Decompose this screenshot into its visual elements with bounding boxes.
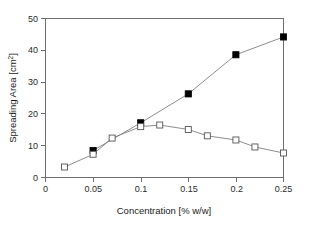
data-point-open-square-series-1 <box>90 151 96 157</box>
x-tick-label-015: 0.15 <box>180 184 198 194</box>
data-point-open-square-series-5 <box>185 126 191 132</box>
x-tick-label-0: 0 <box>43 184 48 194</box>
data-point-filled-square-series-3 <box>233 52 239 58</box>
data-point-open-square-series-3 <box>138 124 144 130</box>
data-point-open-square-series-8 <box>252 144 258 150</box>
y-tick-label-40: 40 <box>28 45 38 55</box>
chart-container: 0 10 20 30 40 50 0 0.05 0.1 0.15 0.2 0.2… <box>0 0 309 227</box>
x-tick-label-025: 0.25 <box>275 184 293 194</box>
x-tick-label-005: 0.05 <box>85 184 103 194</box>
svg-text:Spreading Area [cm2]: Spreading Area [cm2] <box>7 53 18 143</box>
data-point-open-square-series-6 <box>204 133 210 139</box>
axes-group <box>45 18 284 178</box>
series-filled-square-series <box>90 34 287 154</box>
x-tick-label-02: 0.2 <box>230 184 243 194</box>
data-point-filled-square-series-4 <box>280 34 286 40</box>
series-line-1 <box>65 125 284 167</box>
data-point-open-square-series-7 <box>233 137 239 143</box>
data-point-open-square-series-9 <box>281 150 287 156</box>
y-tick-label-20: 20 <box>28 109 38 119</box>
data-point-open-square-series-4 <box>157 122 163 128</box>
y-axis-title-tail: ] <box>7 53 18 56</box>
y-tick-label-50: 50 <box>28 14 38 24</box>
series-open-square-series <box>62 122 287 170</box>
y-tick-label-30: 30 <box>28 77 38 87</box>
y-axis-title-base: Spreading Area [cm <box>7 59 18 143</box>
series-layer <box>62 34 287 170</box>
data-point-open-square-series-0 <box>62 164 68 170</box>
x-tick-label-01: 0.1 <box>135 184 148 194</box>
x-axis-ticks: 0 0.05 0.1 0.15 0.2 0.25 <box>43 178 292 194</box>
data-point-filled-square-series-2 <box>185 91 191 97</box>
y-axis-title: Spreading Area [cm2] <box>7 53 18 143</box>
x-axis-title: Concentration [% w/w] <box>117 205 212 216</box>
y-tick-label-0: 0 <box>33 173 38 183</box>
spreading-area-line-chart: 0 10 20 30 40 50 0 0.05 0.1 0.15 0.2 0.2… <box>0 0 309 227</box>
data-point-open-square-series-2 <box>109 135 115 141</box>
y-axis-ticks: 0 10 20 30 40 50 <box>28 14 45 183</box>
y-tick-label-10: 10 <box>28 141 38 151</box>
